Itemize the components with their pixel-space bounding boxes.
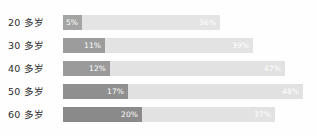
bar-segment-dark[interactable]: 11% (63, 38, 105, 53)
bar-segment-dark[interactable]: 20% (63, 107, 142, 122)
chart-row: 20 多岁 5% 36% (0, 15, 316, 31)
category-label: 60 多岁 (8, 107, 60, 123)
chart-row: 40 多岁 12% 47% (0, 61, 316, 77)
category-label: 30 多岁 (8, 38, 60, 54)
age-group-stacked-bar-chart: 20 多岁 5% 36% 30 多岁 11% 39% 40 多岁 12% (0, 0, 316, 137)
bar-track: 20% 37% (63, 107, 275, 122)
segment-value-label: 12% (89, 64, 110, 73)
segment-value-label: 47% (264, 64, 285, 73)
bar-segment-dark[interactable]: 12% (63, 61, 110, 76)
bar-segment-light[interactable]: 47% (110, 61, 285, 76)
chart-row: 30 多岁 11% 39% (0, 38, 316, 54)
bar-segment-dark[interactable]: 5% (63, 15, 82, 30)
segment-value-label: 20% (121, 110, 142, 119)
bar-segment-light[interactable]: 37% (142, 107, 275, 122)
category-label: 50 多岁 (8, 84, 60, 100)
segment-value-label: 48% (282, 87, 303, 96)
segment-value-label: 37% (254, 110, 275, 119)
segment-value-label: 36% (199, 18, 220, 27)
category-label: 20 多岁 (8, 15, 60, 31)
category-label: 40 多岁 (8, 61, 60, 77)
segment-value-label: 39% (232, 41, 253, 50)
bar-segment-dark[interactable]: 17% (63, 84, 128, 99)
chart-row: 60 多岁 20% 37% (0, 107, 316, 123)
bar-track: 11% 39% (63, 38, 253, 53)
segment-value-label: 11% (84, 41, 105, 50)
bar-track: 5% 36% (63, 15, 220, 30)
bar-segment-light[interactable]: 48% (128, 84, 303, 99)
bar-segment-light[interactable]: 39% (105, 38, 253, 53)
segment-value-label: 17% (107, 87, 128, 96)
bar-track: 17% 48% (63, 84, 303, 99)
bar-segment-light[interactable]: 36% (82, 15, 220, 30)
bar-track: 12% 47% (63, 61, 285, 76)
chart-row: 50 多岁 17% 48% (0, 84, 316, 100)
segment-value-label: 5% (66, 18, 82, 27)
